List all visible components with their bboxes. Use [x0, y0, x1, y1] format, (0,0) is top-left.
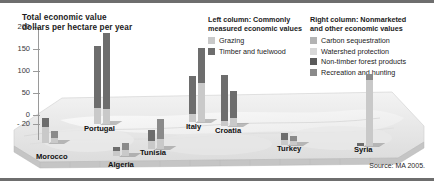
bar-segment: [189, 76, 196, 114]
legend-item-label: Watershed protection: [321, 47, 389, 56]
y-tick-mark: [33, 115, 40, 116]
bar-segment: [42, 118, 49, 127]
bar-segment: [157, 119, 164, 139]
bar-segment: [281, 133, 288, 140]
y-tick-label: 0: [26, 111, 30, 119]
y-tick-label: 100: [17, 67, 30, 75]
bar-segment: [94, 108, 101, 124]
bar-segment: [51, 131, 58, 138]
bar-segment: [103, 33, 110, 109]
country-label: Portugal: [84, 124, 115, 133]
legend-right-heading-line-1: Right column: Nonmarketed: [310, 15, 432, 24]
y-tick-mark: [33, 93, 40, 94]
bar-segment: [148, 130, 155, 141]
country-bar-group[interactable]: [189, 2, 209, 122]
bar-segment: [230, 118, 237, 126]
country-label: Turkey: [277, 144, 301, 153]
bar-right-column[interactable]: [230, 91, 237, 126]
bar-left-column[interactable]: [94, 46, 101, 124]
bar-segment: [189, 114, 196, 122]
country-bar-group[interactable]: [357, 26, 377, 146]
bar-segment: [94, 46, 101, 108]
chart-title-line-1: Total economic value: [22, 13, 132, 23]
bar-left-column[interactable]: [189, 76, 196, 122]
bar-right-column[interactable]: [122, 143, 129, 156]
country-bar-group[interactable]: [148, 29, 168, 149]
bar-right-column[interactable]: [51, 131, 58, 143]
country-label: Syria: [354, 145, 373, 154]
country-bar-group[interactable]: [42, 23, 62, 143]
y-tick-label: - 20: [17, 120, 30, 128]
legend-swatch-icon: [208, 37, 215, 44]
country-label: Italy: [186, 122, 201, 131]
y-tick-label: 150: [17, 45, 30, 53]
legend-item-label: Carbon sequestration: [321, 36, 390, 45]
bar-segment: [51, 138, 58, 143]
legend-swatch-icon: [310, 37, 317, 44]
bar-right-column[interactable]: [157, 119, 164, 149]
country-bar-group[interactable]: [94, 4, 114, 124]
bar-segment: [230, 91, 237, 118]
chart-figure: 200150100500- 20 Total economic value do…: [0, 0, 434, 181]
bar-segment: [198, 83, 205, 122]
frame-top-rule: [0, 0, 434, 3]
bar-segment: [221, 75, 228, 121]
legend-swatch-icon: [310, 58, 317, 65]
country-label: Croatia: [215, 126, 241, 135]
bar-segment: [113, 151, 120, 156]
bar-right-column[interactable]: [103, 33, 110, 124]
bar-segment: [122, 143, 129, 150]
bar-left-column[interactable]: [42, 118, 49, 143]
country-bar-group[interactable]: [113, 36, 133, 156]
bar-segment: [103, 109, 110, 124]
y-tick-label: 50: [22, 89, 30, 97]
y-tick-mark: [33, 124, 40, 125]
bar-segment: [42, 127, 49, 143]
country-bar-group[interactable]: [221, 6, 241, 126]
legend-swatch-icon: [310, 69, 317, 76]
country-label: Tunisia: [140, 148, 166, 157]
country-label: Algeria: [108, 160, 134, 169]
country-label: Morocco: [36, 152, 68, 161]
bar-left-column[interactable]: [221, 75, 228, 126]
y-tick-mark: [33, 71, 40, 72]
chart-title: Total economic value dollars per hectare…: [22, 13, 132, 33]
legend-swatch-icon: [310, 48, 317, 55]
bar-segment: [122, 150, 129, 156]
legend-swatch-icon: [208, 48, 215, 55]
source-note: Source: MA 2005.: [369, 162, 425, 169]
country-bar-group[interactable]: [281, 25, 301, 145]
bar-right-column[interactable]: [198, 48, 205, 122]
chart-title-line-2: dollars per hectare per year: [22, 23, 132, 33]
y-tick-mark: [33, 49, 40, 50]
bar-segment: [366, 80, 373, 146]
frame-bottom-rule: [0, 178, 434, 181]
bar-right-column[interactable]: [366, 74, 373, 146]
bar-segment: [198, 48, 205, 83]
bar-left-column[interactable]: [148, 130, 155, 149]
bar-left-column[interactable]: [113, 147, 120, 156]
